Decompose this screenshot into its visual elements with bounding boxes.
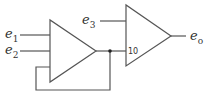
junction-dot [108,49,112,53]
gain-label: 10 [128,48,138,56]
amplifier-2 [126,5,171,66]
output-label-eo: eo [190,29,203,46]
input-label-e2: e2 [5,43,18,60]
input-label-e3: e3 [82,13,95,30]
circuit-diagram [0,0,212,95]
feedback-wire [36,51,110,90]
